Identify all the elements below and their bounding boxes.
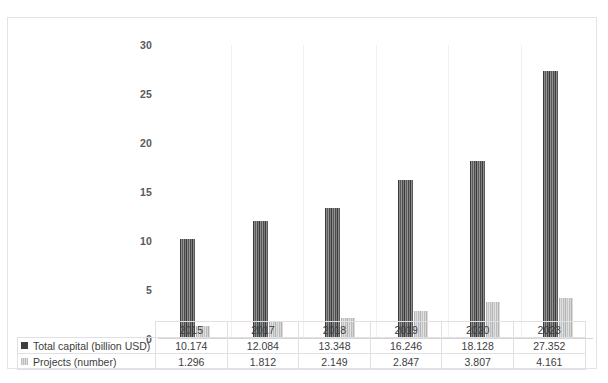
y-axis-tick-label: 30 (112, 39, 152, 51)
table-data-cell: 16.246 (370, 338, 442, 354)
legend-label: Total capital (billion USD) (33, 340, 150, 352)
legend-swatch-icon (21, 358, 28, 365)
y-axis-ticks: 302520151050 (108, 45, 152, 339)
bar-total-capital (398, 180, 413, 339)
plot-area (158, 45, 593, 339)
y-axis-tick-label: 20 (112, 137, 152, 149)
bar-group (158, 45, 231, 339)
table-column-header: 2020 (442, 322, 514, 338)
table-column-header: 2017 (227, 322, 299, 338)
y-axis-tick-label: 25 (112, 88, 152, 100)
data-table-body: 201520172018201920202023Total capital (b… (18, 322, 586, 370)
bar-group (376, 45, 449, 339)
bar-group (521, 45, 594, 339)
table-data-cell: 4.161 (513, 354, 585, 370)
y-axis-tick-label: 10 (112, 235, 152, 247)
table-data-cell: 13.348 (299, 338, 371, 354)
table-data-cell: 18.128 (442, 338, 514, 354)
table-column-header: 2015 (156, 322, 228, 338)
table-row: 201520172018201920202023 (18, 322, 586, 338)
table-corner-cell (18, 322, 156, 338)
bar-total-capital (543, 71, 558, 339)
table-data-cell: 2.847 (370, 354, 442, 370)
chart-plot-frame: 302520151050 (7, 17, 597, 369)
chart-container: 302520151050 201520172018201920202023Tot… (0, 0, 608, 383)
table-column-header: 2018 (299, 322, 371, 338)
table-column-header: 2019 (370, 322, 442, 338)
table-data-cell: 27.352 (513, 338, 585, 354)
bar-group (231, 45, 304, 339)
table-row: Projects (number)1.2961.8122.1492.8473.8… (18, 354, 586, 370)
bar-total-capital (470, 161, 485, 339)
legend-entry: Projects (number) (18, 354, 156, 370)
y-axis-tick-label: 15 (112, 186, 152, 198)
legend-swatch-icon (21, 342, 28, 349)
table-data-cell: 10.174 (156, 338, 228, 354)
data-table: 201520172018201920202023Total capital (b… (17, 321, 586, 370)
bar-group (303, 45, 376, 339)
table-row: Total capital (billion USD)10.17412.0841… (18, 338, 586, 354)
bar-group (448, 45, 521, 339)
legend-entry: Total capital (billion USD) (18, 338, 156, 354)
table-data-cell: 1.812 (227, 354, 299, 370)
clipped-title-remnant (98, 0, 238, 2)
table-column-header: 2023 (513, 322, 585, 338)
legend-label: Projects (number) (33, 356, 116, 368)
table-data-cell: 2.149 (299, 354, 371, 370)
y-axis-tick-label: 5 (112, 284, 152, 296)
table-data-cell: 1.296 (156, 354, 228, 370)
bar-total-capital (325, 208, 340, 339)
plot-inner (158, 45, 593, 339)
table-data-cell: 12.084 (227, 338, 299, 354)
table-data-cell: 3.807 (442, 354, 514, 370)
